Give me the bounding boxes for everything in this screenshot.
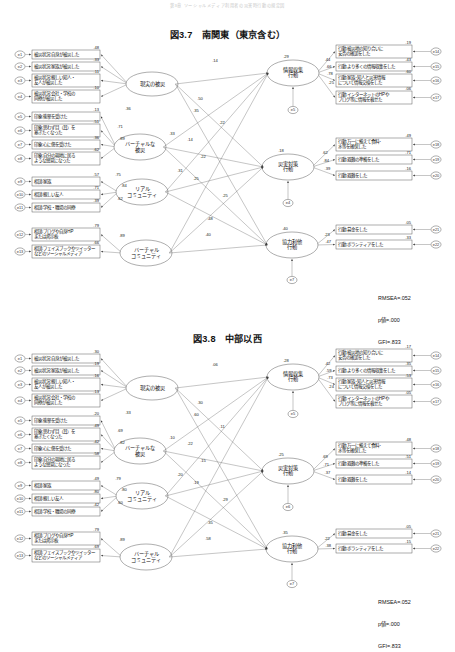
- error-arrow: [25, 555, 31, 557]
- path-coefficient: .14: [405, 470, 411, 475]
- path-coefficient: .19: [93, 361, 99, 366]
- observed-variable-left: 相談:フェイスブックやツイッターなどのソーシャルメディア: [32, 245, 100, 258]
- figure-caption-1: 南関東（東京含む）: [202, 30, 286, 40]
- error-arrow: [25, 462, 31, 464]
- error-label: e19: [433, 461, 440, 466]
- path-coefficient: .89: [119, 233, 125, 238]
- error-arrow: [413, 229, 431, 231]
- path-coefficient: .78: [327, 71, 333, 76]
- observed-variable-left: 相談:学校・職場の同僚: [32, 507, 100, 516]
- path-coefficient: .20: [93, 411, 99, 416]
- structural-path: [175, 388, 263, 471]
- error-arrow: [25, 251, 31, 253]
- figure-title-1: 図3.7南関東（東京含む）: [0, 27, 455, 41]
- error-label: e14: [433, 353, 440, 358]
- error-label: e11: [17, 205, 23, 210]
- error-arrow: [25, 498, 31, 500]
- error-label: e21: [433, 227, 440, 232]
- error-arrow: [413, 244, 431, 246]
- observed-variable-left: 被災状況:会社・学校の同僚が被災した: [32, 90, 100, 103]
- latent-variable: 現実の被災: [126, 72, 178, 96]
- error-term: e22: [431, 241, 441, 248]
- path-coefficient: .62: [322, 150, 328, 155]
- error-term: e7: [15, 445, 25, 452]
- path-coefficient: .89: [119, 136, 125, 141]
- observed-variable-right: 行動:万一に備えて食料･水等を確保した: [336, 442, 412, 455]
- path-coefficient: .22: [324, 536, 330, 541]
- observed-label: 相談:親しい友人: [34, 191, 64, 198]
- error-arrow: [25, 234, 31, 236]
- observed-variable-left: 相談:親しい友人: [32, 190, 100, 199]
- observed-label: 行動:より多くの情報収集をした: [338, 367, 396, 374]
- path-coefficient: .71: [93, 185, 99, 190]
- figure-title-2: 図3.8中部以西: [0, 331, 455, 345]
- observed-label: 被災状況:家族が被災した: [34, 367, 80, 374]
- measurement-path: [101, 486, 118, 497]
- observed-label: 相談:家族: [34, 482, 52, 489]
- path-coefficient: .49: [405, 133, 411, 138]
- observed-variable-left: 印象:思わず目（耳）を塞ぎたくなった: [32, 428, 100, 441]
- path-coefficient: .49: [93, 423, 99, 428]
- error-label: e6: [18, 128, 22, 133]
- observed-variable-left: 相談:フェイスブックやツイッターなどのソーシャルメディア: [32, 549, 100, 562]
- structural-path: [175, 84, 263, 167]
- path-coefficient: .53: [405, 373, 411, 378]
- path-coefficient: .33: [169, 131, 175, 136]
- error-term: e19: [431, 460, 441, 467]
- error-label: e7: [18, 446, 22, 451]
- measurement-path: [101, 192, 118, 195]
- observed-label: 相談:親しい友人: [34, 495, 64, 502]
- error-term: e3: [15, 381, 25, 388]
- observed-variable-left: 相談:ブログや自身HPまたは掲示板: [32, 532, 100, 545]
- observed-label: 被災状況:自身が被災した: [34, 355, 80, 362]
- rmsea-value-1: RMSEA=.052: [378, 295, 411, 302]
- path-coefficient: .25: [328, 80, 334, 85]
- path-coefficient: .30: [93, 349, 99, 354]
- path-coefficient: .69: [93, 544, 99, 549]
- measurement-path: [101, 80, 128, 84]
- error-arrow: [25, 448, 31, 450]
- disturbance-arrow: [292, 391, 294, 410]
- observed-variable-left: 被災状況:自身が被災した: [32, 354, 100, 363]
- structural-path: [165, 73, 268, 192]
- observed-label: 行動:ボランティアをした: [338, 241, 384, 248]
- error-label: e11: [17, 509, 23, 514]
- latent-variable: 情報収集行動: [267, 364, 319, 390]
- measurement-path: [101, 496, 118, 512]
- path-coefficient: .33: [93, 57, 99, 62]
- path-coefficient: .84: [323, 158, 329, 163]
- path-coefficient: .18: [278, 148, 284, 153]
- observed-variable-right: 行動:万一に備えて食料･水等を確保した: [336, 138, 412, 151]
- error-label: e8: [18, 460, 22, 465]
- latent-label: バーチャルコミュニティ: [131, 247, 161, 259]
- path-coefficient: .19: [193, 480, 199, 485]
- observed-variable-left: 相談:家族: [32, 177, 100, 186]
- path-coefficient: .23: [324, 232, 330, 237]
- latent-variable: 協力利他行動: [266, 232, 318, 258]
- structural-path: [163, 147, 267, 245]
- measurement-path: [101, 131, 116, 148]
- error-arrow: [25, 358, 31, 360]
- error-term: e15: [431, 367, 441, 374]
- observed-label: 行動:ボランティアをした: [338, 545, 384, 552]
- error-label: e18: [433, 142, 440, 147]
- measurement-path: [101, 251, 122, 253]
- error-term: e5: [15, 113, 25, 120]
- error-arrow: [25, 420, 31, 422]
- observed-variable-left: 印象:思わず目（耳）を塞ぎたくなった: [32, 124, 100, 137]
- error-arrow: [25, 538, 31, 540]
- error-term: e9: [15, 178, 25, 185]
- sem-diagram-nankanto: 被災状況:自身が被災したe1.48被災状況:家族が被災したe2.33被災状況:親…: [0, 40, 455, 310]
- path-coefficient: .60: [193, 412, 199, 417]
- latent-label: バーチャルコミュニティ: [131, 551, 161, 563]
- error-arrow: [25, 116, 31, 118]
- path-coefficient: .37: [325, 470, 331, 475]
- error-arrow: [413, 401, 431, 403]
- path-coefficient: .58: [205, 536, 211, 541]
- path-coefficient: .75: [115, 172, 121, 177]
- observed-label: 行動:家族･知人と災害情報について情報交換をした: [338, 378, 386, 390]
- path-coefficient: .05: [405, 390, 411, 395]
- error-label: e2: [18, 368, 22, 373]
- path-coefficient: .30: [197, 400, 203, 405]
- error-label: e10: [17, 192, 24, 197]
